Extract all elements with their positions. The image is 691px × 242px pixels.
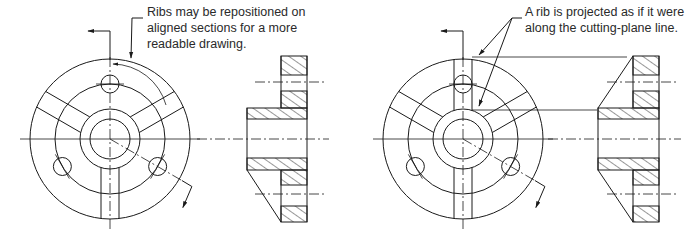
- hatched-section: [598, 108, 659, 119]
- hatched-section: [281, 206, 307, 222]
- annotation-line: aligned sections for a more: [147, 20, 305, 36]
- hatched-section: [247, 108, 307, 119]
- hatched-section: [247, 158, 307, 170]
- right-circular-view: [373, 31, 553, 229]
- cutting-plane-arrow-bottom: [535, 181, 545, 208]
- hatched-section: [633, 170, 659, 185]
- hatched-section: [598, 158, 659, 170]
- annotation-line: along the cutting-plane line.: [525, 20, 684, 36]
- cutting-plane-arrow-top: [441, 31, 463, 60]
- right-section-view: [548, 56, 681, 222]
- annotation-line: A rib is projected as if it were: [525, 4, 684, 20]
- left-section-view: [197, 56, 329, 222]
- bolt-hole-centerline: [55, 154, 69, 178]
- hatched-section: [633, 56, 659, 75]
- rib-edge: [139, 107, 183, 132]
- rib-edge: [37, 107, 81, 132]
- annotation-line: Ribs may be repositioned on: [147, 4, 305, 20]
- technical-drawing: [0, 0, 691, 242]
- leader-left: [131, 18, 143, 58]
- rib-diagonal-lower: [247, 170, 281, 222]
- rib-edge: [492, 107, 536, 132]
- annotation-ribs-repositioned: Ribs may be repositioned on aligned sect…: [147, 4, 305, 52]
- bolt-hole-centerline: [504, 154, 518, 178]
- rib-edge: [399, 91, 443, 116]
- hatched-section: [633, 206, 659, 222]
- hatched-section: [281, 56, 307, 75]
- cutting-plane-arrow-top: [88, 31, 110, 60]
- bolt-hole-centerline: [408, 154, 422, 178]
- cutting-plane-arrow-bottom: [182, 181, 192, 208]
- left-circular-view: [20, 31, 200, 229]
- hatched-section: [633, 91, 659, 108]
- hatched-section: [281, 91, 307, 108]
- rib-edge: [390, 107, 434, 132]
- annotation-line: readable drawing.: [147, 36, 305, 52]
- cutting-plane-line: [110, 139, 182, 181]
- bolt-hole-centerline: [151, 154, 165, 178]
- rib-edge: [483, 91, 527, 116]
- rib-edge: [46, 91, 90, 116]
- rib-rotation-arc: [113, 64, 166, 105]
- hatched-section: [281, 170, 307, 185]
- rib-diagonal-lower: [598, 170, 633, 222]
- annotation-rib-projected: A rib is projected as if it were along t…: [525, 4, 684, 36]
- cutting-plane-line: [463, 139, 535, 181]
- rib-edge: [130, 91, 174, 116]
